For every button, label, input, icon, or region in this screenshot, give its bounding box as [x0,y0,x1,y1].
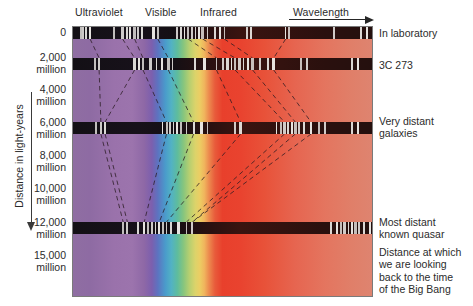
spectrum-row-3c-273 [72,58,373,70]
annotation-line: galaxies [379,127,473,139]
spectral-line [138,58,140,70]
spectral-line [129,27,131,39]
annotation-line: known quasar [379,228,473,240]
spectral-line [122,222,124,234]
spectral-line [149,58,152,70]
spectral-line [167,58,170,70]
spectral-line [166,122,168,134]
spectral-line [333,27,336,39]
annotation-3c-273: 3C 273 [379,59,473,71]
redshift-connector [253,70,296,122]
spectral-line [224,27,226,39]
spectral-line [259,58,261,70]
spectral-line [194,58,196,70]
spectral-line [318,122,320,134]
spectral-line [330,222,333,234]
spectral-line [166,222,168,234]
redshift-connector [158,39,169,58]
redshift-connector [99,70,101,122]
annotation-in-laboratory: In laboratory [379,27,473,39]
spectral-line [184,27,186,39]
spectral-line [85,27,88,39]
spectrum-plot-area [72,26,373,297]
y-tick-1: 2,000million [8,52,66,75]
spectral-line [133,27,136,39]
redshift-connector [186,134,284,222]
spectral-line [272,58,275,70]
spectral-line [238,58,241,70]
spectral-line [216,58,218,70]
spectral-line [243,58,245,70]
spectral-line [310,122,313,134]
spectral-line [104,122,107,134]
spectral-line [226,58,229,70]
spectral-line [283,122,286,134]
spectral-line [357,58,359,70]
y-tick-value: 2,000 [8,52,66,64]
annotation-line: Distance at which [379,246,473,258]
redshift-connector [274,70,311,122]
spectral-line [162,222,165,234]
spectral-line [285,27,287,39]
spectral-line [366,27,368,39]
annotation-line: of the Big Bang [379,283,473,295]
spectral-line [142,58,144,70]
redshift-connector [144,134,166,222]
redshift-connector [167,134,241,222]
spectral-line [250,27,253,39]
spectral-line [156,58,158,70]
wavelength-arrow-line [289,19,367,20]
redshift-connector [123,39,135,58]
y-axis-arrow-line [31,92,32,223]
redshift-connector [224,39,252,58]
redshift-connector [168,70,193,122]
spectral-line [157,27,159,39]
redshift-connector [188,39,216,58]
redshift-connector [90,39,99,58]
spectral-line [186,122,188,134]
spectral-line [161,58,163,70]
spectral-line [169,122,172,134]
spectral-line [280,122,282,134]
spectral-line [94,58,96,70]
annotation-line: Very distant [379,115,473,127]
spectral-line [300,58,302,70]
annotation-line: In laboratory [379,27,473,39]
label-infrared: Infrared [200,6,237,18]
spectral-line [363,222,365,234]
redshift-connector [143,70,167,122]
spectral-line [186,222,188,234]
spectral-line [291,122,293,134]
spectral-line [246,27,248,39]
spectral-line [193,122,195,134]
y-tick-unit: million [8,64,66,76]
spectral-line [251,58,254,70]
spectral-line [95,122,97,134]
spectral-line [351,122,354,134]
spectral-line [143,222,145,234]
annotation-most-distant-quasar: Most distantknown quasar [379,216,473,241]
y-axis-arrow [27,92,36,232]
redshift-connector [217,70,241,122]
spectral-line [147,222,149,234]
spectral-line [133,58,136,70]
spectral-line [141,27,143,39]
spectral-line [348,222,350,234]
spectral-line [152,27,155,39]
spectral-line [276,122,278,134]
redshift-spectrum-figure: UltravioletVisibleInfraredWavelength 02,… [0,0,473,306]
annotation-line: 3C 273 [379,59,473,71]
spectral-line [162,122,164,134]
redshift-connector [192,134,295,222]
spectral-line [126,222,128,234]
spectral-line [214,27,216,39]
spectrum-row-very-distant-galaxies [72,122,373,134]
spectral-line [298,122,300,134]
spectral-line [100,122,102,134]
redshift-connector [192,134,311,222]
annotation-big-bang-distance: Distance at whichwe are lookingback to t… [379,246,473,296]
wavelength-arrow [289,15,375,25]
spectral-line [351,222,353,234]
y-tick-value: 0 [8,27,66,39]
spectral-line [151,222,154,234]
